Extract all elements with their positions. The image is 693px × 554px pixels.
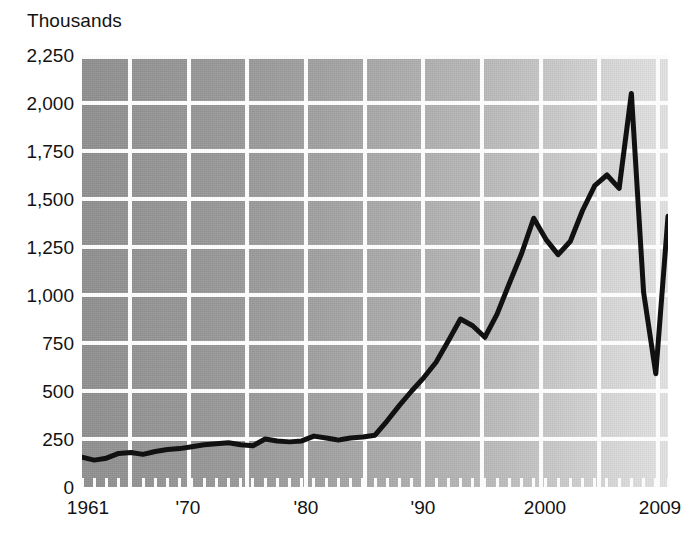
x-tick-label-1970: '70 xyxy=(176,498,201,517)
x-tick-label-1990: '90 xyxy=(411,498,436,517)
x-axis-tick-labels: 1961 '70 '80 '90 2000 2009 xyxy=(0,0,693,554)
x-tick-label-1961: 1961 xyxy=(67,498,109,517)
x-tick-label-2009: 2009 xyxy=(639,498,681,517)
line-chart-figure: Thousands 2,250 2,000 1,750 1,500 1,250 … xyxy=(0,0,693,554)
x-tick-label-2000: 2000 xyxy=(524,498,566,517)
x-tick-label-1980: '80 xyxy=(294,498,319,517)
